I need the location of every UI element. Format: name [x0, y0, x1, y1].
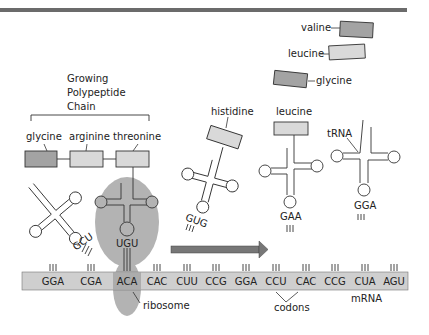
codon-7: GGA: [231, 276, 261, 288]
codon-1: GGA: [38, 276, 68, 288]
chain-amino-glycine: glycine: [26, 131, 62, 143]
free-amino-leucine: leucine: [288, 48, 324, 60]
trna-gcu: [7, 165, 104, 264]
anticodon-gga: GGA: [354, 200, 376, 212]
free-box-valine: [340, 21, 374, 38]
codons-label: codons: [274, 302, 310, 314]
anticodon-ugu: UGU: [116, 238, 138, 250]
free-box-histidine: [207, 125, 243, 149]
trna-label: tRNA: [327, 128, 352, 140]
chain-label-line-1: Growing: [67, 73, 108, 85]
chain-box-glycine: [25, 151, 57, 167]
free-amino-valine: valine: [301, 22, 331, 34]
chain-bracket: [31, 115, 149, 121]
chain-box-arginine: [70, 151, 103, 167]
free-box-glycine: [273, 70, 307, 87]
top-rule-bar: [0, 8, 407, 12]
free-box-leucine-trna: [274, 122, 308, 135]
translation-diagram: Growing Polypeptide Chain glycine argini…: [0, 0, 429, 335]
chain-label-line-2: Polypeptide: [67, 87, 126, 99]
free-box-leucine: [329, 44, 366, 60]
mrna-label: mRNA: [351, 293, 382, 305]
free-amino-glycine: glycine: [316, 75, 352, 87]
codons-bracket: [276, 292, 298, 302]
trna-gug: [173, 139, 247, 221]
codon-6: CCG: [201, 276, 231, 288]
codon-12: AGU: [379, 276, 409, 288]
chain-amino-arginine: arginine: [69, 131, 110, 143]
codon-2: CGA: [76, 276, 106, 288]
direction-arrow: [171, 241, 268, 258]
trna-amino-histidine: histidine: [211, 106, 254, 118]
codon-9: CAC: [291, 276, 321, 288]
chain-label-line-3: Chain: [67, 101, 96, 113]
codon-10: CCG: [320, 276, 350, 288]
codon-3: ACA: [112, 276, 142, 288]
chain-amino-threonine: threonine: [113, 131, 161, 143]
chain-box-threonine: [116, 151, 149, 167]
codon-4: CAC: [142, 276, 172, 288]
anticodon-gaa: GAA: [280, 211, 302, 223]
codon-5: CUU: [172, 276, 202, 288]
ribosome-label: ribosome: [143, 300, 190, 312]
trna-amino-leucine: leucine: [276, 106, 312, 118]
trna-gaa: [259, 135, 323, 208]
codon-8: CCU: [261, 276, 291, 288]
codon-11: CUA: [350, 276, 380, 288]
